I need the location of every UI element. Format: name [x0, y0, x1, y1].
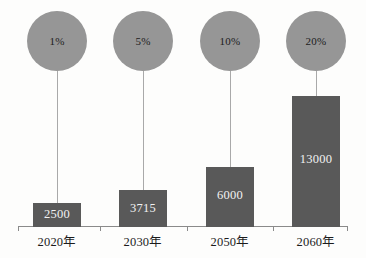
x-axis-tick	[100, 226, 101, 231]
percent-bubble-label: 5%	[135, 35, 150, 47]
category-label: 2060年	[286, 231, 346, 250]
bubble-stem	[316, 71, 317, 96]
chart-column: 5% 3715 2030年	[113, 0, 173, 258]
percent-bubble: 20%	[286, 11, 346, 71]
bar-value-label: 3715	[119, 201, 167, 216]
percent-bubble: 1%	[27, 11, 87, 71]
bubble-stem	[57, 71, 58, 203]
x-axis-tick	[187, 226, 188, 231]
percent-bubble-label: 10%	[220, 35, 241, 47]
bar-chart: 1% 2500 2020年 5% 3715 2030年 10%	[0, 0, 366, 258]
bar: 2500	[33, 203, 81, 227]
chart-column: 20% 13000 2060年	[286, 0, 346, 258]
category-label: 2050年	[200, 231, 260, 250]
percent-bubble-label: 1%	[49, 35, 64, 47]
bar-value-label: 13000	[292, 152, 340, 167]
bubble-stem	[143, 71, 144, 190]
bar: 13000	[292, 96, 340, 227]
chart-column: 1% 2500 2020年	[27, 0, 87, 258]
plot-area: 1% 2500 2020年 5% 3715 2030年 10%	[0, 0, 366, 258]
category-label: 2030年	[113, 231, 173, 250]
bar-value-label: 2500	[33, 207, 81, 222]
percent-bubble: 5%	[113, 11, 173, 71]
bar: 6000	[206, 167, 254, 227]
chart-column: 10% 6000 2050年	[200, 0, 260, 258]
x-axis-tick	[347, 226, 348, 231]
bar-value-label: 6000	[206, 188, 254, 203]
bubble-stem	[230, 71, 231, 167]
x-axis-tick	[18, 226, 19, 231]
percent-bubble-label: 20%	[306, 35, 327, 47]
category-label: 2020年	[27, 231, 87, 250]
percent-bubble: 10%	[200, 11, 260, 71]
x-axis-tick	[273, 226, 274, 231]
bar: 3715	[119, 190, 167, 227]
